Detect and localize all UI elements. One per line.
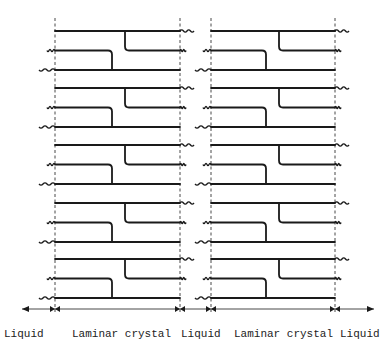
chain-fold-right	[279, 88, 335, 108]
chain-end-tail	[180, 106, 186, 108]
chain-end-tail	[195, 69, 211, 71]
chain-fold-left	[55, 51, 112, 71]
chain-end-tail	[335, 49, 341, 51]
chain-end-tail	[335, 87, 349, 89]
chain-end-tail	[335, 163, 341, 165]
chain-group	[39, 30, 194, 71]
chain-end-tail	[335, 144, 349, 146]
chain-end-tail	[39, 69, 55, 71]
chain-end-tail	[203, 221, 211, 223]
chain-fold-right	[125, 88, 180, 108]
chain-end-tail	[180, 277, 186, 279]
chain-fold-right	[279, 145, 335, 165]
chain-group	[195, 202, 349, 243]
chain-end-tail	[180, 49, 186, 51]
chain-end-tail	[39, 126, 55, 128]
chain-end-tail	[335, 202, 349, 204]
chain-fold-left	[55, 279, 112, 299]
chain-fold-right	[279, 259, 335, 279]
chain-end-tail	[180, 163, 186, 165]
chain-end-tail	[203, 163, 211, 165]
chain-group	[195, 258, 349, 299]
chain-fold-right	[279, 203, 335, 223]
chain-group	[195, 87, 349, 128]
region-axis	[22, 306, 374, 312]
chain-group	[195, 30, 349, 71]
chain-end-tail	[47, 221, 55, 223]
chain-end-tail	[180, 30, 194, 32]
chain-end-tail	[335, 106, 341, 108]
chain-end-tail	[335, 30, 349, 32]
chain-end-tail	[180, 221, 186, 223]
chain-fold-right	[125, 259, 180, 279]
left-arrow-icon	[22, 306, 29, 312]
chain-fold-left	[211, 108, 266, 128]
chain-fold-left	[211, 223, 266, 243]
chain-fold-left	[55, 108, 112, 128]
chain-end-tail	[195, 126, 211, 128]
chain-fold-right	[125, 31, 180, 51]
panel-1	[39, 18, 194, 312]
chain-fold-left	[211, 51, 266, 71]
chain-end-tail	[203, 49, 211, 51]
label-liquid-left: Liquid	[4, 328, 44, 340]
chain-end-tail	[47, 163, 55, 165]
chain-fold-left	[55, 165, 112, 185]
chain-end-tail	[39, 297, 55, 299]
chain-fold-left	[211, 279, 266, 299]
label-liquid-middle: Liquid	[181, 328, 221, 340]
chain-fold-right	[125, 203, 180, 223]
chain-end-tail	[39, 241, 55, 243]
right-arrow-icon	[367, 306, 374, 312]
chain-fold-right	[279, 31, 335, 51]
chain-group	[195, 144, 349, 185]
laminar-crystal-diagram: Liquid Laminar crystal Liquid Laminar cr…	[0, 0, 392, 355]
label-crystal-1: Laminar crystal	[72, 328, 171, 340]
panel-2	[195, 18, 349, 312]
chain-group	[39, 202, 194, 243]
chain-end-tail	[180, 258, 194, 260]
chain-end-tail	[39, 183, 55, 185]
chain-end-tail	[195, 183, 211, 185]
chain-fold-right	[125, 145, 180, 165]
region-labels: Liquid Laminar crystal Liquid Laminar cr…	[4, 328, 380, 340]
crystal-panels	[39, 18, 349, 312]
chain-group	[39, 144, 194, 185]
chain-end-tail	[47, 106, 55, 108]
chain-end-tail	[335, 221, 341, 223]
chain-end-tail	[47, 277, 55, 279]
chain-end-tail	[195, 297, 211, 299]
chain-group	[39, 87, 194, 128]
label-crystal-2: Laminar crystal	[234, 328, 333, 340]
chain-group	[39, 258, 194, 299]
chain-end-tail	[180, 202, 194, 204]
chain-end-tail	[335, 277, 341, 279]
chain-end-tail	[195, 241, 211, 243]
chain-end-tail	[203, 277, 211, 279]
chain-end-tail	[203, 106, 211, 108]
label-liquid-right: Liquid	[340, 328, 380, 340]
chain-end-tail	[180, 87, 194, 89]
chain-fold-left	[211, 165, 266, 185]
chain-end-tail	[47, 49, 55, 51]
chain-fold-left	[55, 223, 112, 243]
chain-end-tail	[335, 258, 349, 260]
chain-end-tail	[180, 144, 194, 146]
